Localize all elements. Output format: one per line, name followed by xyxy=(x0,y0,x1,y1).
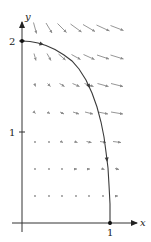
field-vector xyxy=(48,195,50,197)
field-vector xyxy=(111,26,124,31)
x-axis-label: x xyxy=(140,217,146,228)
field-vector xyxy=(35,113,36,114)
field-vector xyxy=(102,169,105,170)
field-vector xyxy=(85,112,93,114)
y-tick-label: 1 xyxy=(9,127,15,138)
field-vector xyxy=(115,169,119,170)
field-vector xyxy=(111,112,123,114)
field-vector xyxy=(97,25,110,31)
field-vector xyxy=(71,24,82,32)
field-vector xyxy=(34,168,36,170)
field-vector xyxy=(88,195,90,197)
end-point xyxy=(108,221,112,225)
trajectory-arrow-icon xyxy=(105,157,110,162)
field-vector xyxy=(48,168,50,170)
field-vector xyxy=(46,23,52,33)
field-vector xyxy=(61,195,63,197)
field-vector xyxy=(84,55,95,60)
field-vector xyxy=(102,195,104,197)
field-vector xyxy=(72,55,81,60)
x-tick-label: 1 xyxy=(107,227,113,238)
field-vector xyxy=(87,142,92,143)
field-vector xyxy=(48,113,50,114)
y-axis-label: y xyxy=(24,11,31,22)
field-vector xyxy=(111,84,123,87)
field-vector xyxy=(98,112,108,114)
field-vector xyxy=(47,54,51,61)
field-vector xyxy=(34,195,36,197)
axis-ticks: 112 xyxy=(9,36,113,238)
direction-field-figure: x y 112 xyxy=(0,0,151,242)
field-vector xyxy=(60,84,65,87)
field-vector xyxy=(111,55,124,59)
trajectory-arrow-icon xyxy=(39,42,44,47)
field-vector xyxy=(61,142,63,143)
field-vector xyxy=(35,84,36,87)
field-vector xyxy=(113,142,121,143)
field-vector xyxy=(98,84,109,87)
y-tick-label: 2 xyxy=(9,36,15,47)
field-vector xyxy=(61,168,63,170)
field-vector xyxy=(75,142,78,143)
field-vector xyxy=(75,195,77,197)
field-vector xyxy=(34,23,37,34)
axes: x y 112 xyxy=(9,11,146,238)
field-vector xyxy=(83,25,95,32)
field-vector xyxy=(60,112,64,114)
field-vector xyxy=(73,112,79,114)
field-vector xyxy=(73,84,80,87)
field-vector xyxy=(34,54,36,61)
trajectory-arrows xyxy=(39,42,109,163)
field-vector xyxy=(34,141,36,143)
field-vector xyxy=(97,55,109,59)
vector-field xyxy=(34,23,124,197)
start-point xyxy=(20,39,24,43)
field-vector xyxy=(48,84,51,87)
solution-curve xyxy=(20,39,112,225)
field-vector xyxy=(48,141,50,143)
field-vector xyxy=(58,24,67,33)
